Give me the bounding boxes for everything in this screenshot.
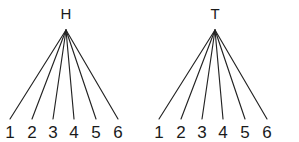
tree-heads: H123456 — [5, 5, 122, 142]
root-node-label: T — [210, 5, 219, 22]
branch-line — [159, 30, 215, 119]
leaf-node-label: 6 — [262, 123, 271, 142]
probability-tree-figure: H123456T123456 — [0, 0, 299, 142]
leaf-node-label: 2 — [176, 123, 185, 142]
leaf-node-label: 6 — [113, 123, 122, 142]
branch-line — [10, 30, 66, 119]
leaf-node-label: 1 — [154, 123, 163, 142]
leaf-node-label: 2 — [27, 123, 36, 142]
leaf-node-label: 3 — [48, 123, 57, 142]
branch-line — [202, 30, 215, 119]
leaf-node-label: 5 — [240, 123, 249, 142]
trees-group: H123456T123456 — [5, 5, 271, 142]
tree-tails: T123456 — [154, 5, 271, 142]
leaf-node-label: 3 — [197, 123, 206, 142]
leaf-node-label: 5 — [91, 123, 100, 142]
leaf-node-label: 4 — [69, 123, 78, 142]
branch-line — [32, 30, 66, 119]
tree-diagram-canvas: H123456T123456 — [0, 0, 299, 142]
leaf-node-label: 1 — [5, 123, 14, 142]
branch-line — [181, 30, 215, 119]
branch-line — [53, 30, 66, 119]
leaf-node-label: 4 — [218, 123, 227, 142]
root-node-label: H — [61, 5, 72, 22]
